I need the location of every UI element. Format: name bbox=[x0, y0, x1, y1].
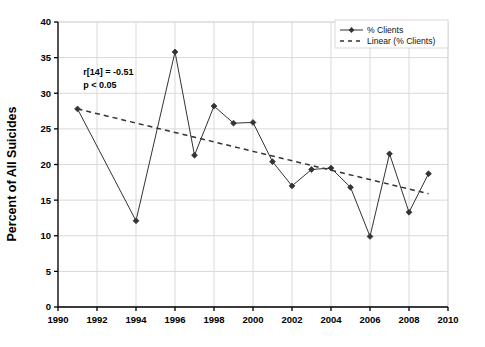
x-tick-label: 1996 bbox=[164, 314, 185, 325]
y-axis-title: Percent of All Suicides bbox=[5, 106, 19, 241]
x-tick-label: 2006 bbox=[359, 314, 380, 325]
chart-legend: % ClientsLinear (% Clients) bbox=[335, 20, 448, 48]
y-tick-label: 25 bbox=[40, 123, 51, 134]
x-tick-label: 1998 bbox=[203, 314, 224, 325]
y-tick-label: 15 bbox=[40, 195, 51, 206]
y-tick-label: 40 bbox=[40, 16, 51, 27]
y-tick-label: 30 bbox=[40, 88, 51, 99]
suicide-percent-line-chart: 0510152025303540 19901992199419961998200… bbox=[0, 0, 485, 347]
x-tick-label: 1990 bbox=[47, 314, 68, 325]
x-tick-label: 2002 bbox=[281, 314, 302, 325]
x-tick-label: 2000 bbox=[242, 314, 263, 325]
x-tick-label: 1992 bbox=[86, 314, 107, 325]
chart-background bbox=[0, 0, 485, 347]
y-tick-label: 35 bbox=[40, 52, 51, 63]
x-tick-label: 1994 bbox=[125, 314, 147, 325]
annotation-p-value: p < 0.05 bbox=[83, 80, 116, 90]
y-tick-label: 5 bbox=[46, 266, 52, 277]
y-tick-label: 20 bbox=[40, 159, 51, 170]
y-tick-label: 10 bbox=[40, 230, 51, 241]
x-tick-label: 2004 bbox=[320, 314, 342, 325]
y-tick-label: 0 bbox=[46, 301, 51, 312]
annotation-correlation: r[14] = -0.51 bbox=[83, 67, 133, 77]
legend-label-trend: Linear (% Clients) bbox=[367, 36, 435, 46]
x-tick-label: 2008 bbox=[398, 314, 419, 325]
legend-label-clients: % Clients bbox=[367, 25, 403, 35]
x-tick-label: 2010 bbox=[437, 314, 458, 325]
chart-container: 0510152025303540 19901992199419961998200… bbox=[0, 0, 485, 347]
